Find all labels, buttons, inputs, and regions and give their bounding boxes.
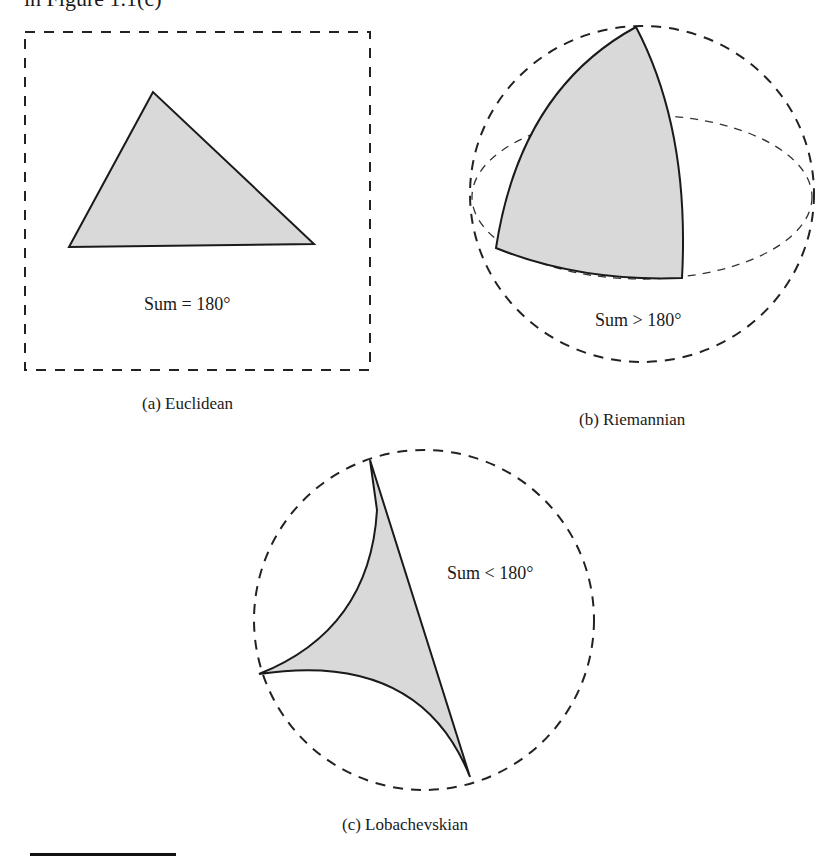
hyperbolic-triangle [259,460,470,777]
spherical-triangle [496,27,683,278]
footnote-rule [30,853,176,856]
euclidean-panel [25,32,370,370]
hyperbolic-disk-outline [254,450,594,790]
lobachevskian-angle-sum-label: Sum < 180° [447,563,533,584]
caption-lobachevskian: (c) Lobachevskian [342,815,468,835]
riemannian-angle-sum-label: Sum > 180° [595,310,681,331]
euclidean-angle-sum-label: Sum = 180° [144,294,230,315]
caption-riemannian: (b) Riemannian [579,410,685,430]
caption-euclidean: (a) Euclidean [142,394,233,414]
euclidean-triangle [69,92,314,247]
geometry-figure [0,0,827,857]
lobachevskian-panel [254,450,594,790]
